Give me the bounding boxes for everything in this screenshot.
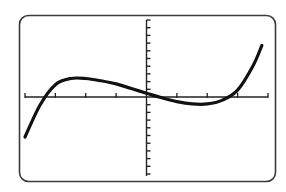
- function-curve: [25, 45, 262, 137]
- axes: [25, 20, 268, 176]
- window-frame: [20, 16, 276, 182]
- graph-canvas: [0, 0, 286, 192]
- calculator-graph-window: [0, 0, 286, 192]
